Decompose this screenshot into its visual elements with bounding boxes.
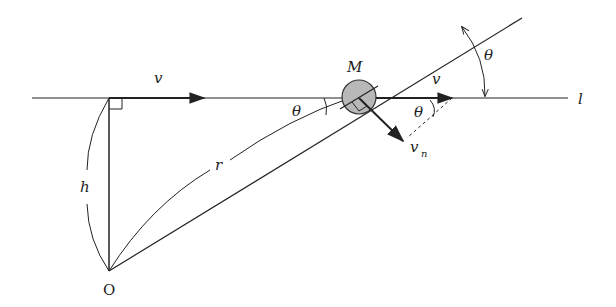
label-h: h (80, 178, 90, 196)
angle-arc-outer (462, 27, 485, 96)
label-theta-M: θ (292, 102, 301, 120)
label-v-normal-sub: n (421, 148, 427, 159)
angle-arc-at-M (324, 98, 327, 115)
label-M: M (346, 58, 363, 76)
label-l: l (578, 90, 583, 108)
label-theta-v: θ (414, 103, 423, 121)
line-OM-extended (109, 18, 522, 271)
label-O: O (103, 281, 115, 299)
right-angle-marker (109, 98, 122, 109)
label-v-left: v (154, 69, 163, 87)
r-dimension-arc (109, 170, 210, 271)
angle-arc-at-v (430, 100, 434, 117)
diagram-canvas: v h r θ M v θ v n θ l O (0, 0, 616, 307)
label-r: r (215, 156, 223, 174)
h-dimension-arc-lower (87, 204, 109, 271)
r-dimension-arc-upper (230, 98, 350, 160)
h-dimension-arc (87, 98, 109, 170)
label-v-normal: v (410, 138, 419, 156)
label-v-right: v (432, 70, 441, 88)
label-theta-outer: θ (484, 46, 493, 64)
